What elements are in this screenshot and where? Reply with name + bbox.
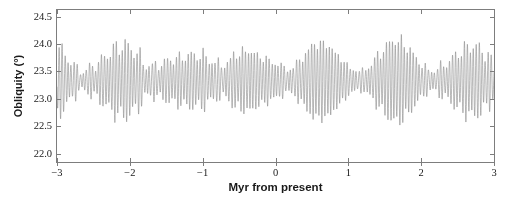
y-axis-tick-mark [56,71,60,72]
y-axis-inner-tick [490,126,494,127]
x-axis-tick-mark [421,162,422,166]
x-axis-tick-label: −2 [110,166,150,179]
x-axis-tick-mark [203,162,204,166]
x-axis-tick-label: 2 [401,166,441,179]
y-axis-tick-label: 22.5 [26,120,52,132]
y-axis-tick-mark [56,154,60,155]
x-axis-inner-tick [494,10,495,14]
x-axis-tick-label: −3 [37,166,77,179]
y-axis-inner-tick [490,17,494,18]
x-axis-tick-label: 1 [328,166,368,179]
x-axis-tick-label: −1 [183,166,223,179]
x-axis-inner-tick [130,10,131,14]
y-axis-inner-tick [490,154,494,155]
obliquity-series-line [57,10,494,162]
x-axis-tick-label: 3 [474,166,513,179]
x-axis-inner-tick [57,10,58,14]
y-axis-tick-label: 24.5 [26,11,52,23]
y-axis-inner-tick [490,99,494,100]
x-axis-tick-mark [494,162,495,166]
x-axis-tick-mark [276,162,277,166]
x-axis-inner-tick [276,10,277,14]
x-axis-tick-labels: −3−2−10123 [0,166,513,180]
obliquity-chart-figure: Obliquity (°) 22.022.523.023.524.024.5 −… [0,0,513,204]
x-axis-inner-tick [203,10,204,14]
y-axis-inner-tick [490,71,494,72]
x-axis-tick-mark [57,162,58,166]
y-axis-tick-mark [56,99,60,100]
y-axis-inner-tick [490,44,494,45]
y-axis-tick-mark [56,17,60,18]
y-axis-tick-mark [56,126,60,127]
y-axis-tick-mark [56,44,60,45]
x-axis-tick-mark [348,162,349,166]
x-axis-tick-mark [130,162,131,166]
plot-area [56,9,495,163]
x-axis-label: Myr from present [56,181,495,193]
y-axis-tick-label: 22.0 [26,148,52,160]
y-axis-tick-label: 24.0 [26,38,52,50]
y-axis-tick-label: 23.5 [26,65,52,77]
x-axis-inner-tick [421,10,422,14]
y-axis-tick-label: 23.0 [26,93,52,105]
x-axis-tick-label: 0 [256,166,296,179]
x-axis-inner-tick [348,10,349,14]
